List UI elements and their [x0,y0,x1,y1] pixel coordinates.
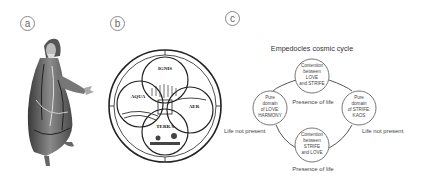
svg-text:HARMONY: HARMONY [258,113,281,118]
svg-text:and LOVE: and LOVE [301,150,322,155]
cycle-title: Empedocles cosmic cycle [271,44,353,53]
label-absent-right: Life not present [362,128,404,134]
svg-text:of STRIFE:: of STRIFE: [348,107,371,112]
svg-text:between: between [303,138,321,143]
svg-text:Contention: Contention [301,132,324,137]
svg-text:between: between [303,69,321,74]
svg-text:Contention: Contention [301,63,324,68]
label-absent-left: Life not present [224,128,266,134]
svg-text:LOVE: LOVE [306,75,318,80]
cosmic-cycle-diagram: Contention between LOVE and STRIFE Pure … [0,0,422,182]
svg-text:and STRIFE: and STRIFE [299,81,324,86]
svg-text:Pure: Pure [354,95,364,100]
svg-text:STRIFE: STRIFE [304,144,320,149]
svg-text:domain: domain [262,101,278,106]
svg-text:of LOVE:: of LOVE: [261,107,280,112]
svg-text:KAOS: KAOS [353,113,366,118]
svg-text:domain: domain [351,101,367,106]
label-presence-top: Presence of life [292,99,334,105]
svg-text:Pure: Pure [265,95,275,100]
label-presence-bottom: Presence of life [292,166,334,172]
